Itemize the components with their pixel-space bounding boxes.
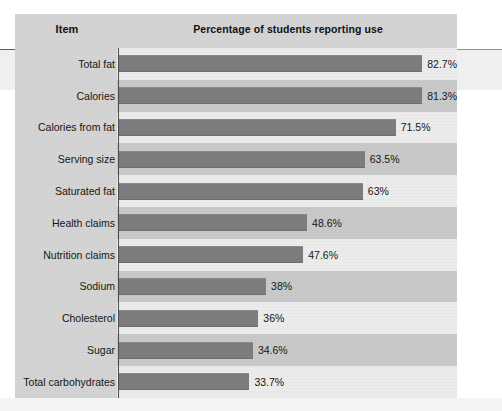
bar-row-label: Saturated fat: [15, 175, 117, 207]
bar-row: Calories81.3%: [15, 80, 457, 112]
bar-row: Saturated fat63%: [15, 175, 457, 207]
bar-value-label: 47.6%: [308, 249, 338, 261]
bar-row-label: Cholesterol: [15, 302, 117, 334]
column-header-item: Item: [15, 23, 119, 35]
bar-row-label: Calories from fat: [15, 112, 117, 144]
bar: [119, 214, 307, 231]
bar-row: Nutrition claims47.6%: [15, 239, 457, 271]
bar-value-label: 34.6%: [258, 344, 288, 356]
bar-value-label: 38%: [271, 280, 292, 292]
bar-track: 63%: [119, 175, 457, 207]
bar-row: Health claims48.6%: [15, 207, 457, 239]
bar-track: 63.5%: [119, 143, 457, 175]
bar-row: Sugar34.6%: [15, 334, 457, 366]
bar-row: Total carbohydrates33.7%: [15, 366, 457, 398]
bar-row-label: Total carbohydrates: [15, 366, 117, 398]
bar-track: 33.7%: [119, 366, 457, 398]
bar: [119, 87, 422, 104]
bar-row: Total fat82.7%: [15, 48, 457, 80]
bar: [119, 278, 266, 295]
bar-value-label: 81.3%: [427, 90, 457, 102]
bar-chart: Item Percentage of students reporting us…: [15, 14, 457, 398]
category-axis-line: [118, 48, 119, 398]
bar-row: Cholesterol36%: [15, 302, 457, 334]
bar-row-label: Serving size: [15, 143, 117, 175]
bar-value-label: 82.7%: [427, 58, 457, 70]
bar-track: 34.6%: [119, 334, 457, 366]
bar-value-label: 33.7%: [254, 376, 284, 388]
bar-row-label: Total fat: [15, 48, 117, 80]
bar-row-label: Health claims: [15, 207, 117, 239]
bar-track: 81.3%: [119, 80, 457, 112]
bar: [119, 119, 396, 136]
bar: [119, 151, 365, 168]
bar: [119, 310, 258, 327]
bar-track: 36%: [119, 302, 457, 334]
bar-track: 71.5%: [119, 112, 457, 144]
bar: [119, 246, 303, 263]
bar-value-label: 63%: [368, 185, 389, 197]
bar: [119, 373, 249, 390]
bar-row: Sodium38%: [15, 271, 457, 303]
bar-value-label: 63.5%: [370, 153, 400, 165]
column-header-percentage: Percentage of students reporting use: [119, 23, 457, 35]
bar-track: 38%: [119, 271, 457, 303]
bar-row-label: Sugar: [15, 334, 117, 366]
plot-area: Total fat82.7%Calories81.3%Calories from…: [15, 48, 457, 398]
bar-row: Calories from fat71.5%: [15, 112, 457, 144]
bar-value-label: 71.5%: [401, 121, 431, 133]
bar-row-label: Nutrition claims: [15, 239, 117, 271]
bar-row: Serving size63.5%: [15, 143, 457, 175]
page-rule-line-right: [457, 49, 502, 50]
bar-value-label: 48.6%: [312, 217, 342, 229]
bar-track: 82.7%: [119, 48, 457, 80]
bar: [119, 183, 363, 200]
bar-track: 47.6%: [119, 239, 457, 271]
bar-row-label: Calories: [15, 80, 117, 112]
bar: [119, 342, 253, 359]
bar-row-label: Sodium: [15, 271, 117, 303]
chart-header: Item Percentage of students reporting us…: [15, 14, 457, 48]
bar-value-label: 36%: [263, 312, 284, 324]
page-tint-band-bottom: [0, 398, 502, 411]
bar-track: 48.6%: [119, 207, 457, 239]
bar: [119, 55, 422, 72]
